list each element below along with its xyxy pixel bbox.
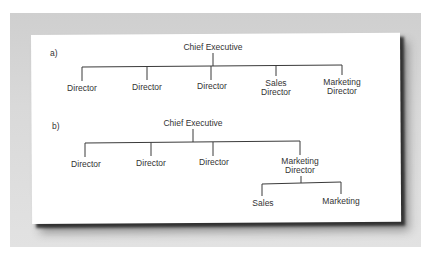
node-sales-b: Sales <box>252 198 273 208</box>
node-sales-director-a-l2: Director <box>261 87 291 97</box>
node-director-b2: Director <box>136 158 166 168</box>
chief-executive-a: Chief Executive <box>183 42 242 52</box>
chief-executive-b: Chief Executive <box>163 118 222 128</box>
node-marketing-b: Marketing <box>322 196 360 206</box>
node-director-b3: Director <box>199 157 229 167</box>
org-charts: a) Chief Executive Director Director Dir… <box>0 0 432 263</box>
org-chart-b: b) Chief Executive Director Director Dir… <box>52 118 360 208</box>
node-marketing-director-b-l2: Director <box>285 165 315 175</box>
diagram-a-label: a) <box>50 48 58 58</box>
node-marketing-director-a-l2: Director <box>327 86 357 96</box>
node-director-a2: Director <box>132 82 162 92</box>
diagram-b-label: b) <box>52 121 60 131</box>
node-director-b1: Director <box>71 159 101 169</box>
node-director-a1: Director <box>67 83 97 93</box>
org-chart-a: a) Chief Executive Director Director Dir… <box>50 42 361 97</box>
connector <box>82 65 342 67</box>
node-director-a3: Director <box>197 81 227 91</box>
